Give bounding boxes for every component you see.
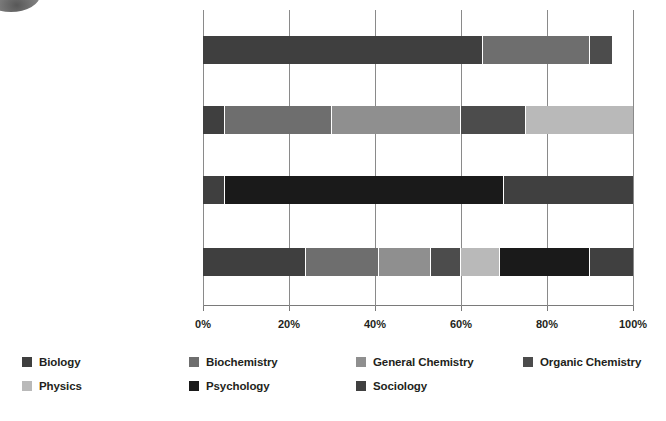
legend-swatch-icon (189, 357, 199, 367)
plot-area: 0%20%40%60%80%100%Biological and Biochem… (203, 10, 633, 306)
bar-segment-biology[interactable] (203, 248, 306, 276)
legend-label: General Chemistry (373, 356, 474, 368)
x-tick-label-80: 80% (536, 318, 558, 330)
legend-swatch-icon (22, 357, 32, 367)
bar-segment-general-chemistry[interactable] (332, 106, 461, 134)
legend-item-biology[interactable]: Biology (22, 356, 189, 368)
bar-row: MCAT (203, 248, 633, 276)
legend-item-sociology[interactable]: Sociology (356, 380, 523, 392)
x-tick-20 (289, 306, 290, 311)
legend-label: Psychology (206, 380, 270, 392)
x-tick-label-20: 20% (278, 318, 300, 330)
x-tick-label-60: 60% (450, 318, 472, 330)
x-tick-80 (547, 306, 548, 311)
bar-segment-biochemistry[interactable] (306, 248, 379, 276)
legend-swatch-icon (189, 381, 199, 391)
x-axis-line (203, 305, 633, 306)
bar-segment-biology[interactable] (203, 106, 225, 134)
x-tick-label-40: 40% (364, 318, 386, 330)
bar-segment-organic-chemistry[interactable] (431, 248, 461, 276)
bar-segment-psychology[interactable] (225, 176, 505, 204)
legend-label: Organic Chemistry (540, 356, 641, 368)
bar-row: Chemical and PhysicalFoundations of Biol… (203, 106, 633, 134)
legend-label: Biology (39, 356, 80, 368)
legend-item-organic-chemistry[interactable]: Organic Chemistry (523, 356, 666, 368)
x-tick-40 (375, 306, 376, 311)
bar-segment-biology[interactable] (203, 36, 483, 64)
bar-segment-organic-chemistry[interactable] (461, 106, 526, 134)
bar-segment-sociology[interactable] (504, 176, 633, 204)
legend-swatch-icon (356, 381, 366, 391)
bar-row: Psychological, Social, and BiologicalFou… (203, 176, 633, 204)
legend-item-biochemistry[interactable]: Biochemistry (189, 356, 356, 368)
bar-segment-psychology[interactable] (500, 248, 590, 276)
stacked-bar[interactable] (203, 176, 633, 204)
legend-item-physics[interactable]: Physics (22, 380, 189, 392)
x-tick-0 (203, 306, 204, 311)
bar-segment-organic-chemistry[interactable] (590, 36, 612, 64)
legend-swatch-icon (523, 357, 533, 367)
bar-segment-biochemistry[interactable] (225, 106, 333, 134)
x-tick-100 (633, 306, 634, 311)
stacked-bar[interactable] (203, 248, 633, 276)
legend-swatch-icon (356, 357, 366, 367)
bar-segment-physics[interactable] (461, 248, 500, 276)
legend-label: Biochemistry (206, 356, 278, 368)
bar-segment-general-chemistry[interactable] (379, 248, 431, 276)
legend-row: PhysicsPsychologySociology (22, 380, 652, 392)
legend-swatch-icon (22, 381, 32, 391)
bar-segment-physics[interactable] (526, 106, 634, 134)
stacked-bar[interactable] (203, 106, 633, 134)
bar-segment-sociology[interactable] (590, 248, 633, 276)
legend-item-psychology[interactable]: Psychology (189, 380, 356, 392)
legend-label: Sociology (373, 380, 427, 392)
bar-segment-biology[interactable] (203, 176, 225, 204)
bar-segment-biochemistry[interactable] (483, 36, 591, 64)
x-tick-label-100: 100% (619, 318, 647, 330)
stacked-bar[interactable] (203, 36, 633, 64)
chart-legend: BiologyBiochemistryGeneral ChemistryOrga… (22, 356, 652, 404)
stacked-bar-chart: 0%20%40%60%80%100%Biological and Biochem… (0, 0, 666, 340)
legend-row: BiologyBiochemistryGeneral ChemistryOrga… (22, 356, 652, 368)
x-tick-60 (461, 306, 462, 311)
legend-label: Physics (39, 380, 82, 392)
bar-row: Biological and BiochemicalFoundations of… (203, 36, 633, 64)
x-tick-label-0: 0% (195, 318, 211, 330)
legend-item-general-chemistry[interactable]: General Chemistry (356, 356, 523, 368)
gridline-100 (633, 10, 634, 306)
